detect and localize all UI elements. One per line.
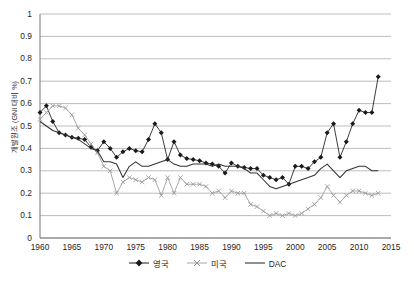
data-point-marker	[153, 178, 157, 182]
legend-label-uk: 영국	[153, 260, 169, 268]
chart-container: 개발원조 (GNI 대비 %) 00.10.20.30.40.50.60.70.…	[0, 0, 414, 282]
data-point-marker	[376, 74, 381, 79]
data-point-marker	[63, 106, 67, 110]
data-point-marker	[133, 148, 138, 153]
data-point-marker	[82, 133, 86, 137]
data-point-marker	[146, 175, 150, 179]
series-line-1	[40, 106, 378, 216]
x-tick-label: 1965	[55, 242, 89, 252]
data-point-marker	[350, 121, 355, 126]
data-point-marker	[344, 139, 349, 144]
data-point-marker	[344, 193, 348, 197]
data-point-marker	[369, 110, 374, 115]
data-point-marker	[357, 108, 362, 113]
data-point-marker	[306, 207, 310, 211]
data-point-marker	[229, 160, 234, 165]
legend-item-dac[interactable]: DAC	[244, 258, 287, 270]
data-point-marker	[102, 164, 106, 168]
series-line-0	[40, 77, 378, 185]
data-point-marker	[325, 184, 329, 188]
data-point-marker	[267, 175, 272, 180]
data-point-marker	[274, 177, 279, 182]
data-point-marker	[44, 110, 48, 114]
data-point-marker	[248, 202, 252, 206]
data-point-marker	[178, 153, 183, 158]
data-point-marker	[318, 155, 323, 160]
x-tick-label: 1970	[87, 242, 121, 252]
data-point-marker	[121, 180, 125, 184]
y-tick-label: 0.4	[6, 143, 32, 153]
x-tick-label: 1975	[119, 242, 153, 252]
data-point-marker	[312, 202, 316, 206]
data-point-marker	[319, 195, 323, 199]
data-point-marker	[299, 211, 303, 215]
x-tick-label: 2010	[342, 242, 376, 252]
y-tick-label: 0.2	[6, 188, 32, 198]
y-tick-label: 0.1	[6, 210, 32, 220]
data-point-marker	[70, 113, 74, 117]
x-tick-label: 1980	[151, 242, 185, 252]
y-tick-label: 0	[6, 233, 32, 243]
data-point-marker	[127, 146, 132, 151]
y-tick-label: 0.9	[6, 31, 32, 41]
data-point-marker	[50, 119, 55, 124]
data-point-marker	[146, 137, 151, 142]
x-tick-label: 2015	[374, 242, 408, 252]
data-point-marker	[76, 126, 80, 130]
data-point-marker	[255, 204, 259, 208]
x-tick-label: 1985	[183, 242, 217, 252]
data-point-marker	[127, 175, 131, 179]
legend-label-usa: 미국	[211, 260, 227, 268]
y-tick-label: 0.6	[6, 98, 32, 108]
data-point-marker	[223, 195, 227, 199]
data-point-marker	[184, 156, 189, 161]
y-tick-label: 0.3	[6, 165, 32, 175]
chart-plot-area	[0, 0, 414, 282]
data-point-marker	[165, 175, 169, 179]
data-point-marker	[274, 211, 278, 215]
y-tick-label: 0.5	[6, 121, 32, 131]
x-tick-label: 1995	[246, 242, 280, 252]
legend-marker-x-icon	[186, 258, 208, 270]
data-point-marker	[191, 157, 196, 162]
x-tick-label: 2005	[310, 242, 344, 252]
y-tick-label: 0.8	[6, 53, 32, 63]
x-tick-label: 1990	[214, 242, 248, 252]
x-tick-label: 1960	[23, 242, 57, 252]
data-point-marker	[216, 189, 220, 193]
legend-label-dac: DAC	[269, 260, 287, 268]
data-point-marker	[293, 164, 298, 169]
data-point-marker	[229, 189, 233, 193]
data-point-marker	[331, 193, 335, 197]
data-point-marker	[140, 180, 144, 184]
data-point-marker	[134, 178, 138, 182]
data-point-marker	[204, 184, 208, 188]
y-tick-label: 1	[6, 9, 32, 19]
data-point-marker	[159, 193, 163, 197]
data-point-marker	[338, 200, 342, 204]
chart-legend: 영국 미국 DAC	[0, 258, 414, 270]
data-point-marker	[287, 211, 291, 215]
legend-marker-line-icon	[244, 258, 266, 270]
data-point-marker	[140, 149, 145, 154]
data-point-marker	[197, 158, 202, 163]
data-point-marker	[363, 110, 368, 115]
data-point-marker	[248, 166, 253, 171]
legend-item-usa[interactable]: 미국	[186, 258, 227, 270]
data-point-marker	[337, 155, 342, 160]
x-tick-label: 2000	[278, 242, 312, 252]
legend-marker-diamond-icon	[128, 258, 150, 270]
data-point-marker	[178, 175, 182, 179]
data-point-marker	[172, 139, 177, 144]
y-tick-label: 0.7	[6, 76, 32, 86]
data-point-marker	[261, 209, 265, 213]
legend-item-uk[interactable]: 영국	[128, 258, 169, 270]
data-point-marker	[370, 193, 374, 197]
data-point-marker	[299, 164, 304, 169]
